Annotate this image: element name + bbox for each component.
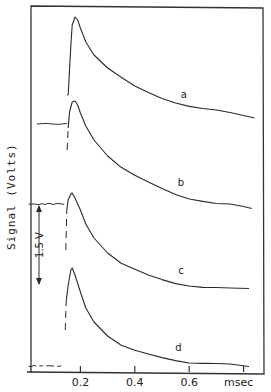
plot-frame: [27, 6, 264, 374]
x-tick-label: 0.4: [126, 376, 144, 389]
trace-label-c: c: [178, 265, 184, 276]
trace-label-b: b: [178, 177, 184, 188]
trace-label-a: a: [181, 89, 187, 100]
trace-label-d: d: [175, 342, 181, 353]
scale-bar-label: 1.5 V: [34, 232, 45, 258]
y-axis-label: Signal (Volts): [5, 143, 18, 250]
signal-traces: [29, 17, 255, 367]
x-tick-label: 0.6: [180, 376, 198, 389]
trace-b: [37, 101, 252, 209]
signal-chart: 0.20.40.6msec abcd 1.5 V Signal (Volts): [0, 0, 271, 392]
trace-c: [29, 193, 249, 289]
x-axis-ticks: 0.20.40.6msec: [72, 366, 254, 389]
trace-d: [29, 268, 249, 367]
trace-labels: abcd: [175, 89, 187, 353]
x-tick-label: 0.2: [72, 376, 90, 389]
trace-a: [67, 17, 254, 118]
scale-bar: 1.5 V: [34, 205, 45, 285]
x-tick-label: msec: [224, 376, 253, 389]
